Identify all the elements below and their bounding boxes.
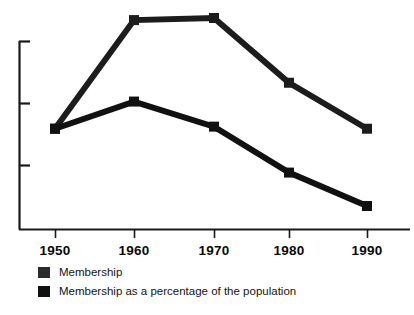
series-1-marker-3 <box>284 168 294 178</box>
x-tick-label-4: 1990 <box>352 243 383 258</box>
x-tick-label-2: 1970 <box>199 243 230 258</box>
legend-label-membership: Membership <box>59 266 122 279</box>
series-1-marker-4 <box>362 201 372 211</box>
legend-swatch-membership <box>38 267 50 278</box>
x-tick-label-3: 1980 <box>274 243 305 258</box>
series-1-marker-2 <box>209 122 219 132</box>
x-tick-label-0: 1950 <box>40 243 71 258</box>
series-1-marker-1 <box>129 97 139 107</box>
series-0-marker-2 <box>209 13 219 23</box>
x-axis-tick-labels: 1950 1960 1970 1980 1990 <box>40 243 383 258</box>
legend-label-membership-percentage: Membership as a percentage of the popula… <box>59 285 296 298</box>
series-0-marker-3 <box>284 78 294 88</box>
x-tick-label-1: 1960 <box>119 243 150 258</box>
legend-item-membership: Membership <box>38 263 408 282</box>
legend-swatch-membership-percentage <box>38 286 50 297</box>
legend-item-membership-percentage: Membership as a percentage of the popula… <box>38 282 408 301</box>
series-line-1 <box>55 102 367 206</box>
line-chart-figure: 1950 1960 1970 1980 1990 Membership Memb… <box>0 0 414 315</box>
y-axis-ticks <box>19 42 30 166</box>
series-1-marker-0 <box>50 124 60 134</box>
series-0-marker-4 <box>362 124 372 134</box>
series-0-marker-1 <box>129 15 139 25</box>
chart-series-layer <box>50 13 372 211</box>
chart-legend: Membership Membership as a percentage of… <box>38 263 408 301</box>
